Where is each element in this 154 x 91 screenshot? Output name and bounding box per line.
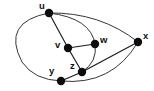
vertex-label-w: w bbox=[100, 35, 107, 45]
vertex-label-z: z bbox=[70, 61, 75, 71]
graph-vertex-w bbox=[91, 40, 99, 48]
graph-canvas bbox=[0, 0, 154, 91]
vertex-label-y: y bbox=[49, 66, 54, 76]
vertex-label-u: u bbox=[39, 1, 45, 11]
vertex-label-x: x bbox=[143, 31, 148, 41]
graph-vertex-z bbox=[78, 68, 86, 76]
graph-vertex-u bbox=[45, 9, 53, 17]
graph-figure: uvwxyz bbox=[0, 0, 154, 91]
graph-vertex-x bbox=[134, 38, 142, 46]
graph-edge-z-x bbox=[82, 42, 138, 72]
graph-vertex-y bbox=[57, 77, 65, 85]
vertex-label-v: v bbox=[55, 40, 60, 50]
edge-layer bbox=[16, 13, 138, 82]
graph-vertex-v bbox=[64, 44, 72, 52]
